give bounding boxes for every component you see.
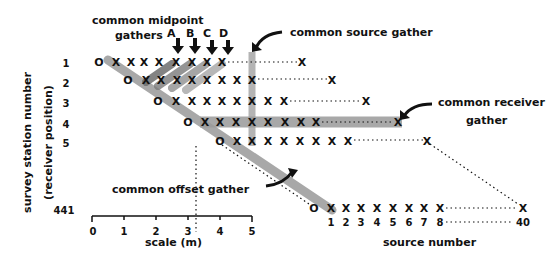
source-marker: X [296, 135, 304, 148]
source-marker: X [405, 202, 413, 215]
station-3: 3 [63, 98, 70, 109]
y-axis-title-line2: (receiver position) [42, 68, 55, 218]
gather-diagram: common midpoint gathers A B C D common s… [0, 0, 554, 263]
source-marker: X [203, 74, 211, 87]
source-marker: X [357, 202, 365, 215]
source-marker: X [232, 116, 240, 129]
scale-bar [92, 216, 252, 222]
common-source-arrow-icon [256, 32, 282, 48]
source-marker: X [248, 135, 256, 148]
source-marker: X [248, 116, 256, 129]
source-marker: X [218, 74, 226, 87]
source-num-4: 4 [374, 217, 381, 228]
source-marker: X [280, 135, 288, 148]
common-receiver-arrow-icon [404, 104, 432, 116]
source-marker: X [328, 74, 336, 87]
cmp-letter-a: A [167, 27, 176, 40]
source-marker: X [327, 202, 335, 215]
source-marker: X [188, 74, 196, 87]
receiver-marker: O [94, 56, 103, 69]
source-num-2: 2 [343, 217, 350, 228]
source-marker: X [172, 95, 180, 108]
source-marker: X [188, 56, 196, 69]
source-marker: X [394, 116, 402, 129]
source-marker: X [157, 74, 165, 87]
source-marker: X [127, 56, 135, 69]
common-source-label: common source gather [290, 26, 433, 39]
source-marker: X [188, 95, 196, 108]
source-marker: X [248, 95, 256, 108]
cmp-title-line2: gathers [115, 29, 163, 42]
station-441: 441 [54, 205, 75, 216]
y-axis-title-line1: survey station number [21, 68, 34, 218]
cmp-letter-b: B [186, 27, 194, 40]
source-marker: X [155, 56, 163, 69]
source-marker: X [389, 202, 397, 215]
station-5: 5 [63, 138, 70, 149]
source-marker: X [218, 95, 226, 108]
x-axis-title: source number [383, 236, 476, 249]
source-marker: X [172, 56, 180, 69]
source-num-40: 40 [516, 217, 530, 228]
receiver-marker: O [123, 74, 132, 87]
source-marker: X [280, 95, 288, 108]
cmp-title-line1: common midpoint [92, 14, 204, 27]
arrow-c-icon [206, 40, 218, 55]
receiver-marker: O [183, 116, 192, 129]
gather-bands [0, 0, 554, 263]
source-marker: X [112, 56, 120, 69]
common-receiver-label-line1: common receiver [438, 96, 545, 109]
source-marker: X [373, 202, 381, 215]
source-marker: X [140, 56, 148, 69]
source-num-7: 7 [421, 217, 428, 228]
source-marker: X [248, 74, 256, 87]
source-marker: X [264, 95, 272, 108]
station-2: 2 [63, 78, 70, 89]
cmp-letter-c: C [203, 27, 211, 40]
scale-tick-2: 2 [153, 226, 160, 237]
source-marker: X [297, 116, 305, 129]
source-marker: X [201, 116, 209, 129]
receiver-marker: O [153, 95, 162, 108]
source-marker: X [203, 95, 211, 108]
source-marker: X [362, 95, 370, 108]
source-marker: X [216, 116, 224, 129]
source-marker: X [142, 74, 150, 87]
receiver-marker: O [215, 135, 224, 148]
source-marker: X [420, 202, 428, 215]
source-marker: X [233, 95, 241, 108]
source-num-3: 3 [358, 217, 365, 228]
source-marker: X [281, 116, 289, 129]
source-marker: X [203, 56, 211, 69]
scale-tick-0: 0 [90, 226, 97, 237]
source-num-1: 1 [328, 217, 335, 228]
station-4: 4 [63, 119, 70, 130]
source-marker: X [423, 135, 431, 148]
source-num-5: 5 [390, 217, 397, 228]
source-marker: X [312, 116, 320, 129]
source-marker: X [218, 56, 226, 69]
cmp-letter-d: D [219, 27, 228, 40]
arrow-d-icon [222, 40, 234, 55]
scale-title: scale (m) [145, 236, 202, 249]
source-marker: X [344, 135, 352, 148]
scale-tick-5: 5 [249, 226, 256, 237]
source-marker: X [328, 135, 336, 148]
source-num-8: 8 [437, 217, 444, 228]
source-marker: X [233, 74, 241, 87]
source-marker: X [436, 202, 444, 215]
scale-tick-4: 4 [217, 226, 224, 237]
source-marker: X [342, 202, 350, 215]
source-num-6: 6 [406, 217, 413, 228]
source-marker: X [519, 202, 527, 215]
common-receiver-label-line2: gather [466, 114, 507, 127]
source-marker: X [173, 74, 181, 87]
source-marker: X [298, 56, 306, 69]
scale-tick-1: 1 [121, 226, 128, 237]
receiver-marker: O [309, 202, 318, 215]
station-1: 1 [63, 58, 70, 69]
scale-tick-3: 3 [185, 226, 192, 237]
arrow-b-icon [189, 38, 201, 54]
source-marker: X [264, 135, 272, 148]
source-marker: X [264, 116, 272, 129]
